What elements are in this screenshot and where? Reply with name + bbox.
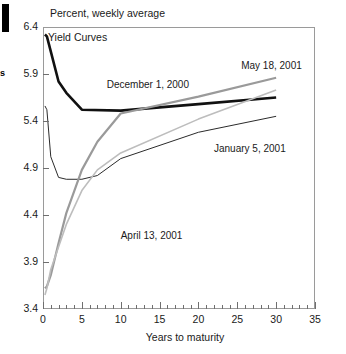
series-label-3: April 13, 2001 bbox=[121, 230, 183, 242]
y-tick-label-text: 4.4 bbox=[16, 209, 38, 220]
x-tick-label: 30 bbox=[261, 313, 291, 325]
series-line-4 bbox=[45, 90, 276, 295]
series-label-1: December 1, 2000 bbox=[107, 79, 189, 91]
y-tick-label: 6.4 bbox=[14, 21, 38, 32]
x-tick-mark-minor bbox=[97, 305, 98, 309]
x-tick-mark-minor bbox=[299, 305, 300, 309]
x-tick-mark-minor bbox=[51, 305, 52, 309]
x-tick-mark-minor bbox=[113, 305, 114, 309]
x-tick-mark-major bbox=[43, 302, 44, 309]
y-tick-label: 4.4 bbox=[14, 209, 38, 220]
y-tick-mark bbox=[43, 262, 49, 263]
y-tick-label: 5.4 bbox=[14, 115, 38, 126]
x-tick-mark-minor bbox=[105, 305, 106, 309]
y-tick-mark bbox=[43, 168, 49, 169]
x-tick-mark-minor bbox=[245, 305, 246, 309]
x-tick-mark-minor bbox=[59, 305, 60, 309]
x-tick-mark-minor bbox=[261, 305, 262, 309]
x-tick-mark-minor bbox=[136, 305, 137, 309]
x-tick-mark-major bbox=[160, 302, 161, 309]
x-tick-mark-major bbox=[315, 302, 316, 309]
y-tick-label-text: 3.9 bbox=[16, 256, 38, 267]
y-tick-label-text: 6.4 bbox=[16, 21, 38, 32]
x-tick-label: 20 bbox=[183, 313, 213, 325]
x-tick-mark-minor bbox=[253, 305, 254, 309]
series-line-1 bbox=[45, 35, 276, 111]
y-tick-mark bbox=[43, 74, 49, 75]
x-tick-mark-major bbox=[198, 302, 199, 309]
x-tick-mark-minor bbox=[230, 305, 231, 309]
x-tick-mark-major bbox=[121, 302, 122, 309]
y-tick-label: 3.9 bbox=[14, 256, 38, 267]
x-tick-mark-minor bbox=[175, 305, 176, 309]
x-tick-mark-minor bbox=[152, 305, 153, 309]
x-tick-mark-major bbox=[276, 302, 277, 309]
x-tick-mark-minor bbox=[90, 305, 91, 309]
x-tick-label: 5 bbox=[67, 313, 97, 325]
x-tick-mark-minor bbox=[222, 305, 223, 309]
x-tick-label: 25 bbox=[222, 313, 252, 325]
x-tick-mark-minor bbox=[268, 305, 269, 309]
series-label-4: May 18, 2001 bbox=[241, 60, 302, 72]
x-tick-mark-minor bbox=[307, 305, 308, 309]
y-tick-mark bbox=[43, 121, 49, 122]
x-tick-label: 0 bbox=[28, 313, 58, 325]
x-tick-mark-minor bbox=[128, 305, 129, 309]
y-tick-mark bbox=[43, 215, 49, 216]
series-label-2: January 5, 2001 bbox=[214, 143, 286, 155]
x-tick-mark-major bbox=[237, 302, 238, 309]
x-tick-mark-minor bbox=[191, 305, 192, 309]
x-tick-label: 15 bbox=[145, 313, 175, 325]
y-tick-label: 4.9 bbox=[14, 162, 38, 173]
chart-title-annotation: Yield Curves bbox=[48, 31, 107, 44]
x-tick-mark-minor bbox=[206, 305, 207, 309]
yield-curves-figure: s Percent, weekly average 3.43.94.44.95.… bbox=[0, 0, 346, 354]
y-tick-label: 5.9 bbox=[14, 68, 38, 79]
x-tick-mark-minor bbox=[214, 305, 215, 309]
x-tick-mark-major bbox=[82, 302, 83, 309]
chart-subtitle: Percent, weekly average bbox=[50, 7, 165, 20]
x-axis-title: Years to maturity bbox=[0, 331, 346, 343]
black-bar-marker bbox=[2, 4, 9, 32]
x-tick-label: 35 bbox=[300, 313, 330, 325]
x-tick-mark-minor bbox=[74, 305, 75, 309]
x-tick-mark-minor bbox=[66, 305, 67, 309]
y-tick-label-text: 5.9 bbox=[16, 68, 38, 79]
x-tick-mark-minor bbox=[144, 305, 145, 309]
edge-text-fragment: s bbox=[0, 67, 5, 79]
x-tick-mark-minor bbox=[292, 305, 293, 309]
x-tick-mark-minor bbox=[284, 305, 285, 309]
y-tick-label-text: 5.4 bbox=[16, 115, 38, 126]
x-tick-mark-minor bbox=[183, 305, 184, 309]
x-tick-label: 10 bbox=[106, 313, 136, 325]
y-tick-label-text: 4.9 bbox=[16, 162, 38, 173]
series-line-3 bbox=[45, 78, 276, 289]
x-tick-mark-minor bbox=[167, 305, 168, 309]
